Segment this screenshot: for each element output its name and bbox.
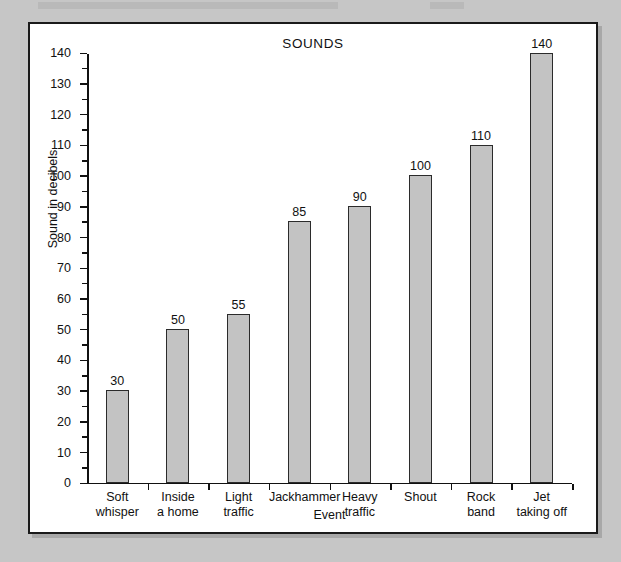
y-tick-major: 120	[80, 114, 87, 116]
y-tick-major: 90	[80, 206, 87, 208]
y-tick-minor	[82, 436, 87, 438]
bar-value-label: 55	[232, 298, 246, 312]
y-tick-major: 110	[80, 145, 87, 147]
category-label-line: Soft	[87, 490, 148, 505]
y-tick-label: 10	[57, 446, 71, 460]
y-tick-minor	[82, 129, 87, 131]
y-tick-major: 100	[80, 175, 87, 177]
y-tick-minor	[82, 68, 87, 70]
y-tick-minor	[82, 406, 87, 408]
y-tick-label: 140	[50, 46, 71, 60]
bar-value-label: 50	[171, 313, 185, 327]
y-tick-label: 20	[57, 415, 71, 429]
y-tick-major: 80	[80, 237, 87, 239]
bar: 90	[348, 206, 371, 482]
category-label-line: Inside	[148, 490, 209, 505]
y-tick-label: 30	[57, 384, 71, 398]
bar: 100	[409, 175, 432, 482]
x-axis-separator-tick	[572, 484, 574, 490]
y-tick-minor	[82, 160, 87, 162]
category-label-line: Heavy	[330, 490, 391, 505]
category-label-line: Jackhammer	[269, 490, 330, 505]
category-label-line: Rock	[451, 490, 512, 505]
y-tick-minor	[82, 283, 87, 285]
bar: 85	[288, 221, 311, 482]
y-tick-minor	[82, 99, 87, 101]
y-tick-major: 20	[80, 421, 87, 423]
y-tick-minor	[82, 191, 87, 193]
x-axis-title: Event	[87, 508, 572, 522]
y-tick-minor	[82, 467, 87, 469]
y-tick-label: 40	[57, 353, 71, 367]
bar-value-label: 30	[110, 374, 124, 388]
y-tick-label: 50	[57, 323, 71, 337]
category-label: Shout	[390, 490, 451, 505]
plot-area: 0102030405060708090100110120130140 30505…	[87, 54, 572, 484]
bar: 110	[470, 145, 493, 483]
ghost-text-line-right	[430, 2, 464, 9]
y-tick-major: 40	[80, 360, 87, 362]
category-label-line: Jet	[511, 490, 572, 505]
y-tick-label: 130	[50, 77, 71, 91]
bar: 55	[227, 314, 250, 483]
y-axis-line	[87, 54, 89, 484]
bar-value-label: 100	[410, 159, 431, 173]
y-axis-title: Sound in decibels	[46, 129, 60, 269]
y-tick-major: 50	[80, 329, 87, 331]
figure-frame: SOUNDS 010203040506070809010011012013014…	[28, 22, 598, 534]
bar-value-label: 110	[471, 129, 491, 143]
y-tick-major: 0	[80, 483, 87, 485]
y-tick-major: 60	[80, 298, 87, 300]
bar-value-label: 90	[353, 190, 367, 204]
y-tick-major: 130	[80, 83, 87, 85]
chart-title: SOUNDS	[30, 36, 596, 51]
bar-value-label: 140	[531, 37, 552, 51]
y-tick-major: 10	[80, 452, 87, 454]
category-label-line: Light	[208, 490, 269, 505]
y-tick-minor	[82, 344, 87, 346]
y-tick-minor	[82, 221, 87, 223]
bar: 50	[166, 329, 189, 483]
category-label-line: Shout	[390, 490, 451, 505]
bar: 140	[530, 53, 553, 483]
y-tick-major: 70	[80, 268, 87, 270]
bar-value-label: 85	[292, 205, 306, 219]
y-tick-label: 0	[64, 476, 71, 490]
y-tick-minor	[82, 314, 87, 316]
ghost-text-line-left	[38, 2, 338, 9]
y-tick-major: 140	[80, 53, 87, 55]
y-tick-major: 30	[80, 390, 87, 392]
bar: 30	[106, 390, 129, 482]
scan-header-strip	[0, 0, 621, 16]
y-tick-label: 60	[57, 292, 71, 306]
y-tick-minor	[82, 252, 87, 254]
y-tick-minor	[82, 375, 87, 377]
category-label: Jackhammer	[269, 490, 330, 505]
y-tick-label: 120	[50, 108, 71, 122]
